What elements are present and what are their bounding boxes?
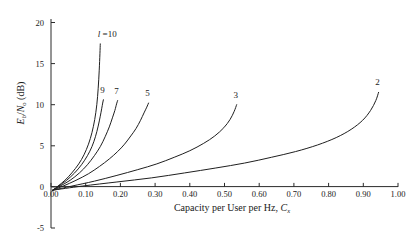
x-axis-title-text: Capacity per User per Hz, Cx [174, 202, 290, 214]
y-axis-title-E: E [15, 118, 26, 125]
y-tick-label: -5 [37, 223, 44, 233]
x-tick-label: 0.70 [286, 189, 301, 199]
y-tick-label: 5 [40, 141, 44, 151]
y-axis-title-unit: (dB) [15, 82, 27, 103]
curve-labels-group: l =1097532 [98, 29, 380, 100]
x-tick-label: 0.90 [356, 189, 371, 199]
y-axis-title-text: Eb/No (dB) [15, 82, 27, 126]
curve-label-l-9: 9 [100, 85, 105, 95]
curve-label-l-2: 2 [375, 77, 380, 87]
curve-label-l-3: 3 [233, 90, 238, 100]
x-tick-label: 0.20 [113, 189, 128, 199]
chart-figure: 20151050-5 0.000.100.200.300.400.500.600… [0, 0, 419, 238]
curve-label-value: =10 [100, 29, 117, 39]
x-tick-label: 1.00 [391, 189, 406, 199]
x-tick-label: 0.00 [44, 189, 59, 199]
x-axis-title-sub: x [286, 207, 290, 214]
data-curve-l-7 [53, 101, 118, 191]
y-axis-title: Eb/No (dB) [15, 82, 27, 126]
curve-label-l-10: l =10 [98, 29, 117, 39]
data-curve-l-10 [53, 44, 101, 190]
curve-label-l-5: 5 [145, 88, 150, 98]
y-axis-ticks: 20151050-5 [36, 18, 56, 234]
x-axis-ticks: 0.000.100.200.300.400.500.600.700.800.90… [44, 183, 406, 199]
x-tick-label: 0.30 [148, 189, 163, 199]
x-tick-label: 0.60 [252, 189, 267, 199]
curve-label-l-7: 7 [114, 86, 119, 96]
data-curve-l-3 [53, 105, 237, 190]
x-axis-title-main: Capacity per User per Hz, [174, 202, 281, 213]
chart-plot-area: 20151050-5 0.000.100.200.300.400.500.600… [0, 0, 419, 238]
y-tick-label: 10 [36, 100, 45, 110]
y-tick-label: 15 [36, 59, 45, 69]
data-curves-group [53, 44, 379, 190]
x-tick-label: 0.40 [182, 189, 197, 199]
x-tick-label: 0.80 [321, 189, 336, 199]
y-tick-label: 20 [36, 18, 45, 28]
x-tick-label: 0.50 [217, 189, 232, 199]
x-tick-label: 0.10 [78, 189, 93, 199]
